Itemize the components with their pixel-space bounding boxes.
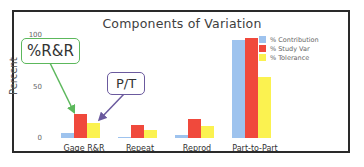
callout-pt: P/T xyxy=(107,72,145,95)
annotation-arrows xyxy=(0,0,364,167)
callout-rr: %R&R xyxy=(21,38,80,64)
